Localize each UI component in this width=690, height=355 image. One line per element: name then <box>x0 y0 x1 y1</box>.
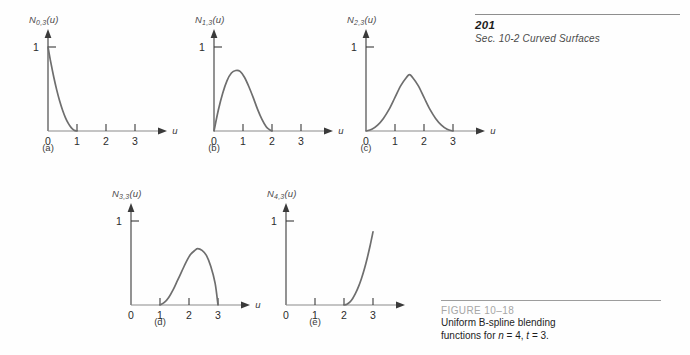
plot-c-curve <box>366 75 453 131</box>
figure-caption-line2-mid1: = 4, <box>504 330 527 341</box>
plot-a-ytick-label-1: 1 <box>33 41 39 53</box>
plot-e-ylabel-main: N <box>267 188 274 199</box>
plot-d-caption: (d) <box>140 316 180 327</box>
plot-a-yaxis-arrow <box>45 29 52 38</box>
plot-b-svg: 1 0 1 2 3 u <box>178 14 348 154</box>
plot-d-ylabel-arg: (u) <box>129 188 141 199</box>
plot-d-xtick-label-0: 0 <box>128 309 134 321</box>
plot-d-curve <box>160 249 218 305</box>
plot-c-ylabel-arg: (u) <box>364 14 376 25</box>
plot-b-curve <box>214 70 272 131</box>
plot-d-ylabel: N3,3(u) <box>112 188 142 200</box>
plot-panel-e: N4,3(u) 1 0 1 2 3 (e) <box>250 188 420 328</box>
plot-e-xtick-label-3: 3 <box>370 309 376 321</box>
plot-a-xtick-label-1: 1 <box>74 135 80 147</box>
plot-d-svg: 1 0 1 2 3 u <box>95 188 265 328</box>
plot-d-xtick-label-2: 2 <box>186 309 192 321</box>
plot-a-xaxis-arrow <box>158 128 167 135</box>
plot-d-ylabel-sub: 3,3 <box>119 193 129 200</box>
plot-c-caption: (c) <box>346 142 386 153</box>
plot-d-xaxis-arrow <box>241 302 250 309</box>
running-head: Sec. 10-2 Curved Surfaces <box>475 33 680 44</box>
figure-caption-line1: Uniform B-spline blending <box>441 317 556 328</box>
plot-b-ytick-label-1: 1 <box>199 41 205 53</box>
plot-d-xtick-label-3: 3 <box>215 309 221 321</box>
figure-caption-block: FIGURE 10–18 Uniform B-spline blending f… <box>441 300 661 342</box>
plot-c-xaxis-label: u <box>490 125 496 136</box>
plot-e-yaxis-arrow <box>283 203 290 212</box>
plot-e-curve <box>344 232 373 305</box>
plot-c-ylabel-main: N <box>347 14 354 25</box>
plot-b-xtick-label-2: 2 <box>269 135 275 147</box>
plot-a-caption: (a) <box>28 142 68 153</box>
plot-b-ylabel-sub: 1,3 <box>202 19 212 26</box>
plot-c-yaxis-arrow <box>363 29 370 38</box>
plot-b-ylabel: N1,3(u) <box>195 14 225 26</box>
figure-caption-text: Uniform B-spline blending functions for … <box>441 317 661 342</box>
figure-caption-line2-mid2: = 3. <box>529 330 549 341</box>
plot-a-xtick-label-3: 3 <box>132 135 138 147</box>
figure-rule <box>441 300 661 301</box>
plot-c-xtick-label-2: 2 <box>421 135 427 147</box>
plot-a-xtick-label-2: 2 <box>103 135 109 147</box>
plot-e-xtick-label-2: 2 <box>341 309 347 321</box>
plot-e-svg: 1 0 1 2 3 <box>250 188 420 328</box>
plot-c-ylabel: N2,3(u) <box>347 14 377 26</box>
plot-c-ytick-label-1: 1 <box>351 41 357 53</box>
plot-c-xtick-label-1: 1 <box>392 135 398 147</box>
page-number: 201 <box>475 19 680 31</box>
plot-c-xtick-label-3: 3 <box>450 135 456 147</box>
plot-panel-a: N0,3(u) 1 0 1 2 3 u (a) <box>12 14 182 154</box>
plot-e-xaxis-arrow <box>396 302 405 309</box>
plot-b-yaxis-arrow <box>211 29 218 38</box>
figure-id: FIGURE 10–18 <box>441 305 661 316</box>
plot-e-ylabel-arg: (u) <box>284 188 296 199</box>
plot-a-ylabel-arg: (u) <box>46 14 58 25</box>
plot-a-svg: 1 0 1 2 3 u <box>12 14 182 154</box>
plot-e-caption: (e) <box>295 316 335 327</box>
plot-d-yaxis-arrow <box>128 203 135 212</box>
plot-b-ylabel-main: N <box>195 14 202 25</box>
plot-a-ylabel: N0,3(u) <box>29 14 59 26</box>
plot-c-xaxis-arrow <box>476 128 485 135</box>
plot-e-xtick-label-0: 0 <box>283 309 289 321</box>
plot-d-ytick-label-1: 1 <box>116 215 122 227</box>
plot-panel-d: N3,3(u) 1 0 1 2 3 u (d) <box>95 188 265 328</box>
plot-e-ylabel-sub: 4,3 <box>274 193 284 200</box>
figure-page: N0,3(u) 1 0 1 2 3 u (a) N1,3( <box>0 0 690 355</box>
plot-b-ylabel-arg: (u) <box>212 14 224 25</box>
plot-e-ylabel: N4,3(u) <box>267 188 297 200</box>
plot-panel-b: N1,3(u) 1 0 1 2 3 u (b) <box>178 14 348 154</box>
plot-b-xtick-label-3: 3 <box>298 135 304 147</box>
page-header: 201 Sec. 10-2 Curved Surfaces <box>475 14 680 44</box>
figure-caption-line2-prefix: functions for <box>441 330 498 341</box>
plot-a-curve <box>48 47 77 131</box>
plot-a-ylabel-sub: 0,3 <box>36 19 46 26</box>
header-rule <box>475 14 680 15</box>
plot-d-ylabel-main: N <box>112 188 119 199</box>
plot-c-ylabel-sub: 2,3 <box>354 19 364 26</box>
plot-b-caption: (b) <box>194 142 234 153</box>
plot-e-ytick-label-1: 1 <box>271 215 277 227</box>
plot-a-ylabel-main: N <box>29 14 36 25</box>
plot-b-xtick-label-1: 1 <box>240 135 246 147</box>
